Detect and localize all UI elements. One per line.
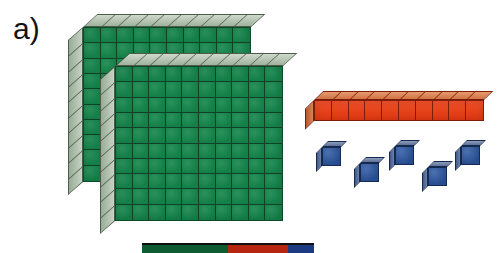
flat-unit-square <box>149 98 166 113</box>
flat-unit-square <box>265 82 282 97</box>
flat-unit-square <box>166 128 183 143</box>
rod-top-tick <box>400 92 408 99</box>
rod-top-tick <box>383 92 391 99</box>
flat-unit-square <box>199 159 216 174</box>
flat-left-tick <box>101 160 114 172</box>
flat-unit-square <box>199 98 216 113</box>
flat-left-bevel <box>68 27 83 195</box>
rod-unit-segment <box>466 101 483 120</box>
flat-top-tick <box>250 54 263 65</box>
flat-unit-square <box>166 98 183 113</box>
flat-unit-square <box>216 128 233 143</box>
flat-unit-square <box>166 159 183 174</box>
rod-unit-segment <box>315 101 332 120</box>
flat-unit-square <box>232 128 249 143</box>
flat-unit-square <box>182 205 199 220</box>
flat-top-tick <box>135 15 148 26</box>
flat-unit-square <box>149 67 166 82</box>
rod-top-tick <box>417 92 425 99</box>
flat-top-tick <box>200 54 213 65</box>
flat-top-tick <box>184 54 197 65</box>
flat-unit-square <box>133 67 150 82</box>
flat-unit-square <box>265 67 282 82</box>
flat-unit-square <box>199 82 216 97</box>
flat-unit-square <box>182 82 199 97</box>
flat-unit-square <box>149 189 166 204</box>
flat-unit-square <box>232 82 249 97</box>
flat-unit-square <box>265 205 282 220</box>
unit-cube <box>389 140 414 165</box>
flat-unit-square <box>249 98 266 113</box>
flat-unit-square <box>182 67 199 82</box>
unit-cube <box>455 140 480 165</box>
flat-unit-square <box>149 82 166 97</box>
flat-unit-square <box>149 174 166 189</box>
flat-unit-square <box>149 113 166 128</box>
flat-unit-square <box>84 28 101 43</box>
rod-unit-segment <box>449 101 466 120</box>
flat-unit-square <box>150 28 167 43</box>
rod-top-tick <box>450 92 458 99</box>
flat-unit-square <box>116 205 133 220</box>
flat-unit-square <box>149 128 166 143</box>
flat-unit-square <box>184 28 201 43</box>
flat-unit-square <box>133 144 150 159</box>
flat-unit-square <box>84 43 101 58</box>
flat-top-tick <box>167 54 180 65</box>
flat-left-tick <box>69 151 82 163</box>
flat-unit-square <box>166 144 183 159</box>
flat-unit-square <box>167 28 184 43</box>
flat-unit-square <box>116 189 133 204</box>
flat-unit-square <box>265 174 282 189</box>
flat-unit-square <box>265 189 282 204</box>
flat-unit-square <box>232 144 249 159</box>
flat-left-tick <box>69 44 82 56</box>
flat-unit-square <box>182 98 199 113</box>
flat-unit-square <box>133 128 150 143</box>
flat-unit-square <box>249 128 266 143</box>
flat-unit-square <box>232 98 249 113</box>
part-label: a) <box>13 14 40 44</box>
flat-unit-square <box>265 144 282 159</box>
rod-left-bevel <box>305 100 314 130</box>
flat-unit-square <box>249 144 266 159</box>
flat-left-tick <box>101 129 114 141</box>
flat-unit-square <box>199 174 216 189</box>
unit-cube <box>422 161 447 186</box>
flat-left-tick <box>101 190 114 202</box>
rod-unit-segment <box>433 101 450 120</box>
flat-unit-square <box>116 144 133 159</box>
flat-unit-square <box>249 113 266 128</box>
rod-unit-segment <box>349 101 366 120</box>
flat-unit-square <box>199 128 216 143</box>
flat-unit-square <box>149 159 166 174</box>
flat-unit-square <box>133 159 150 174</box>
flat-unit-square <box>216 98 233 113</box>
flat-left-tick <box>101 114 114 126</box>
flat-unit-square <box>149 144 166 159</box>
flat-unit-square <box>84 59 101 74</box>
flat-unit-square <box>199 189 216 204</box>
flat-unit-square <box>216 82 233 97</box>
flat-top-tick <box>217 54 230 65</box>
flat-unit-square <box>249 189 266 204</box>
rod-top-tick <box>467 92 475 99</box>
flat-unit-square <box>116 67 133 82</box>
flat-unit-square <box>182 159 199 174</box>
flat-unit-square <box>265 113 282 128</box>
flat-left-tick <box>101 83 114 95</box>
flat-top-tick <box>134 54 147 65</box>
flat-unit-square <box>249 67 266 82</box>
flat-unit-square <box>249 159 266 174</box>
flat-top-bevel <box>115 53 297 66</box>
flat-top-tick <box>201 15 214 26</box>
rod-unit-segment <box>416 101 433 120</box>
rod-unit-segment <box>365 101 382 120</box>
flat-unit-square <box>166 174 183 189</box>
flat-unit-square <box>166 205 183 220</box>
rod-top-tick <box>434 92 442 99</box>
flat-unit-square <box>101 28 118 43</box>
flat-unit-square <box>265 159 282 174</box>
flat-unit-square <box>133 189 150 204</box>
flat-top-tick <box>233 54 246 65</box>
